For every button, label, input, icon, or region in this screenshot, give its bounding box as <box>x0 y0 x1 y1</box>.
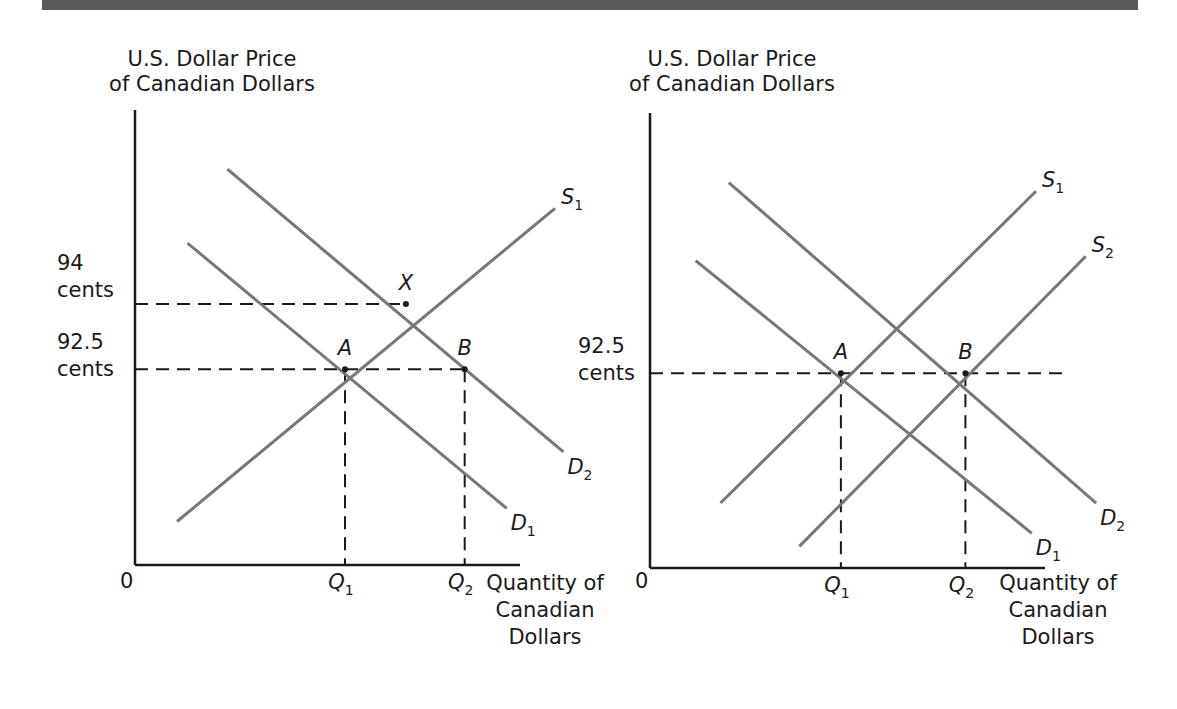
x-tick-label-q2: Q2 <box>448 570 473 598</box>
curve-label-d1-sub: 1 <box>1052 548 1061 564</box>
curve-label-s1-main: S <box>561 185 574 209</box>
curve-label-d2: D2 <box>567 455 592 483</box>
equilibrium-point-a <box>342 366 348 372</box>
y-axis-title-line: of Canadian Dollars <box>109 72 315 96</box>
curve-label-s2-main: S <box>1092 233 1105 257</box>
y-tick-label: cents <box>578 361 635 385</box>
x-tick-label-q2: Q2 <box>949 573 974 601</box>
x-tick-label-q2-sub: 2 <box>465 582 474 598</box>
origin-label: 0 <box>120 569 133 593</box>
curve-d2 <box>227 169 563 452</box>
y-tick-label: 92.5 <box>57 330 104 354</box>
curve-label-s1-sub: 1 <box>1055 180 1064 196</box>
curve-s2 <box>799 256 1085 546</box>
x-tick-label-q2-main: Q <box>448 570 465 594</box>
y-tick-label: 94 <box>57 251 84 275</box>
curve-label-d2-main: D <box>1100 506 1116 530</box>
x-tick-label-q1: Q1 <box>328 570 353 598</box>
x-axis-title-line: Dollars <box>1021 625 1094 649</box>
curve-label-s1-sub: 1 <box>574 197 583 213</box>
curve-label-s1: S1 <box>561 185 583 213</box>
x-axis-title-line: Canadian <box>495 598 594 622</box>
x-tick-label-q2-main: Q <box>949 573 966 597</box>
curve-label-d2-sub: 2 <box>1116 518 1125 534</box>
origin-label: 0 <box>635 569 648 593</box>
point-label-b: B <box>958 340 972 364</box>
x-tick-label-q1: Q1 <box>824 573 849 601</box>
x-axis-title-line: Quantity of <box>486 571 604 595</box>
curve-label-d2-main: D <box>567 455 583 479</box>
x-tick-label-q1-main: Q <box>328 570 345 594</box>
curve-label-d2-sub: 2 <box>584 467 593 483</box>
curve-label-d2: D2 <box>1100 506 1125 534</box>
y-axis-title-line: of Canadian Dollars <box>629 72 835 96</box>
curve-label-s2-sub: 2 <box>1105 245 1114 261</box>
curve-label-s1-main: S <box>1042 168 1055 192</box>
y-axis-title-line: U.S. Dollar Price <box>128 47 297 71</box>
equilibrium-point-x <box>403 301 409 307</box>
x-tick-label-q2-sub: 2 <box>965 585 974 601</box>
point-label-x: X <box>398 271 414 295</box>
point-label-a: A <box>832 340 848 364</box>
curve-s1 <box>721 191 1036 503</box>
curve-s1 <box>177 208 555 521</box>
chart-panel-1: U.S. Dollar Priceof Canadian Dollars0Qua… <box>57 47 604 649</box>
curve-label-d1-sub: 1 <box>527 523 536 539</box>
equilibrium-point-a <box>838 370 844 376</box>
x-tick-label-q1-main: Q <box>824 573 841 597</box>
equilibrium-point-b <box>462 366 468 372</box>
equilibrium-point-b <box>962 370 968 376</box>
x-axis-title-line: Quantity of <box>999 571 1117 595</box>
y-tick-label: cents <box>57 357 114 381</box>
point-label-b: B <box>457 336 471 360</box>
curve-label-s2: S2 <box>1092 233 1114 261</box>
curve-label-d1: D1 <box>511 511 536 539</box>
exchange-rate-diagrams: U.S. Dollar Priceof Canadian Dollars0Qua… <box>0 0 1177 709</box>
y-tick-label: 92.5 <box>578 334 625 358</box>
x-axis-title-line: Canadian <box>1008 598 1107 622</box>
curve-d2 <box>729 183 1096 503</box>
curve-label-d1-main: D <box>511 511 527 535</box>
chart-panel-2: U.S. Dollar Priceof Canadian Dollars0Qua… <box>578 47 1125 649</box>
x-tick-label-q1-sub: 1 <box>345 582 354 598</box>
y-axis-title-line: U.S. Dollar Price <box>648 47 817 71</box>
x-tick-label-q1-sub: 1 <box>841 585 850 601</box>
curve-d1 <box>188 243 507 508</box>
point-label-a: A <box>336 336 352 360</box>
curve-label-s1: S1 <box>1042 168 1064 196</box>
x-axis-title-line: Dollars <box>508 625 581 649</box>
y-tick-label: cents <box>57 278 114 302</box>
curve-label-d1: D1 <box>1036 536 1061 564</box>
curve-label-d1-main: D <box>1036 536 1052 560</box>
